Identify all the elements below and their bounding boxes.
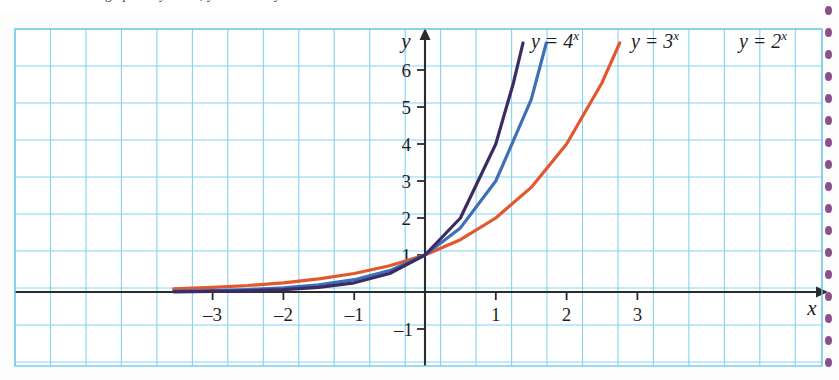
binding-dot bbox=[825, 160, 832, 169]
binding-dot bbox=[825, 28, 832, 37]
y-tick-label: 6 bbox=[402, 60, 412, 81]
binding-dot bbox=[825, 50, 832, 59]
y-tick-label-negative-one: –1 bbox=[393, 319, 413, 340]
binding-dot bbox=[825, 248, 832, 257]
x-tick-label: 3 bbox=[633, 304, 643, 325]
label-curve-2x-exponent: x bbox=[780, 28, 787, 43]
binding-dot bbox=[825, 314, 832, 323]
label-curve-3x: y = 3x bbox=[629, 28, 679, 53]
curve-labels: y = 4x y = 3x y = 2x bbox=[529, 28, 787, 53]
binding-dot bbox=[825, 72, 832, 81]
binding-dot bbox=[825, 270, 832, 279]
y-axis-label: y bbox=[399, 29, 411, 53]
binding-dot bbox=[825, 204, 832, 213]
exponential-graphs-figure: –3 –2 –1 1 2 3 6 5 4 3 2 1 –1 y x bbox=[0, 0, 839, 380]
label-curve-4x: y = 4x bbox=[529, 28, 579, 53]
y-tick-label: 4 bbox=[402, 134, 412, 155]
binding-dot bbox=[825, 336, 832, 345]
binding-dot bbox=[825, 138, 832, 147]
textbook-page: graphs of y = 2^x, y = 3^x and y = 4^x bbox=[0, 0, 839, 380]
x-tick-label: –1 bbox=[344, 304, 364, 325]
label-curve-2x-main: y = 2 bbox=[737, 30, 781, 53]
y-tick-label: 5 bbox=[402, 97, 412, 118]
binding-dot bbox=[825, 358, 832, 367]
spiral-binding bbox=[822, 0, 839, 380]
x-tick-label: –3 bbox=[202, 304, 222, 325]
binding-dot bbox=[825, 6, 832, 15]
binding-dot bbox=[825, 226, 832, 235]
binding-dot bbox=[825, 182, 832, 191]
x-tick-label: 1 bbox=[491, 304, 501, 325]
plot-background bbox=[15, 29, 822, 366]
x-axis-label: x bbox=[806, 296, 817, 320]
label-curve-2x: y = 2x bbox=[737, 28, 787, 53]
binding-dot bbox=[825, 292, 832, 301]
y-tick-label: 2 bbox=[402, 208, 412, 229]
label-curve-3x-exponent: x bbox=[672, 28, 679, 43]
x-tick-label: 2 bbox=[562, 304, 572, 325]
y-tick-label: 3 bbox=[402, 171, 412, 192]
label-curve-4x-exponent: x bbox=[572, 28, 579, 43]
x-tick-label: –2 bbox=[273, 304, 293, 325]
label-curve-4x-main: y = 4 bbox=[529, 30, 573, 53]
binding-dot bbox=[825, 94, 832, 103]
binding-dot bbox=[825, 116, 832, 125]
label-curve-3x-main: y = 3 bbox=[629, 30, 673, 53]
